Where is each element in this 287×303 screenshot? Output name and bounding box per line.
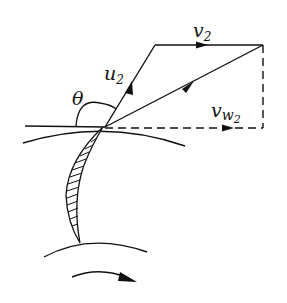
- velocity-diagram: v2 u2 θ vw2: [0, 0, 287, 303]
- label-theta: θ: [72, 87, 84, 109]
- label-u2: u2: [104, 62, 124, 87]
- blade-outline: [66, 127, 103, 243]
- rotor-inner-arc: [44, 243, 147, 257]
- tangent-line: [25, 126, 105, 127]
- label-v2: v2: [193, 19, 211, 44]
- whirl-arrowhead: [222, 125, 234, 132]
- label-vw2: vw2: [211, 99, 241, 126]
- diagonal-arrowhead: [182, 81, 194, 93]
- u2-arrowhead: [125, 81, 133, 95]
- rotation-arrowhead: [118, 272, 137, 282]
- rotor-outer-arc: [23, 131, 185, 146]
